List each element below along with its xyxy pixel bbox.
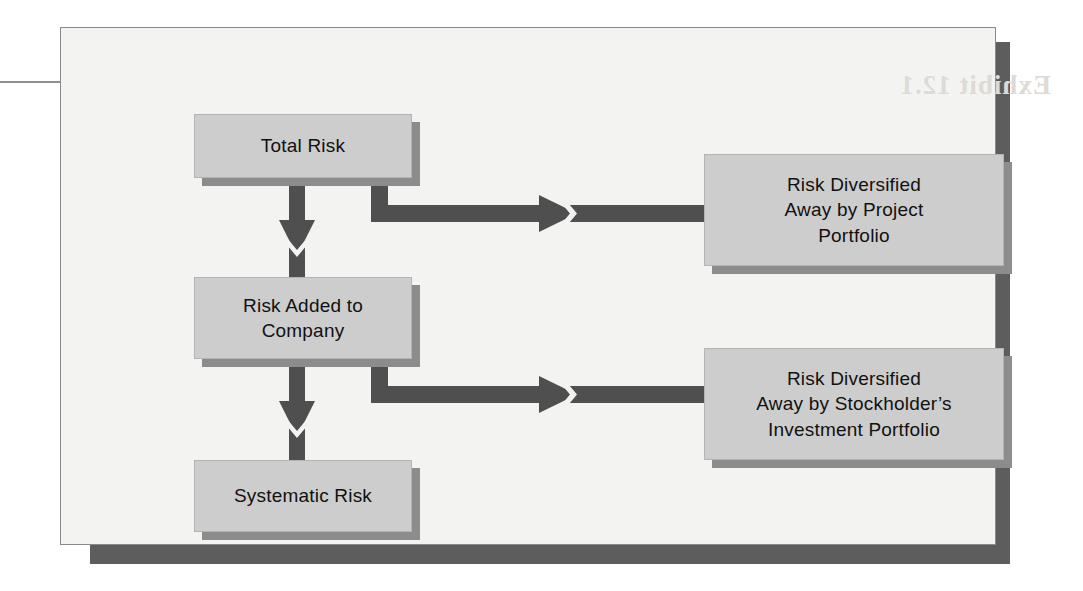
- node-risk-added-line-2: Company: [262, 320, 345, 341]
- page-margin-rule: [0, 81, 66, 83]
- reverse-page-bleed-through-text: Exhibit 12.1: [721, 70, 1051, 104]
- node-diversified-stockholder-line-3: Investment Portfolio: [768, 419, 940, 440]
- node-total-risk: Total Risk: [194, 114, 412, 178]
- connector-total-risk-to-diversified-project: [371, 174, 711, 260]
- node-risk-added-to-company-label: Risk Added to Company: [243, 293, 363, 343]
- scanned-page-background: Exhibit 12.1: [0, 0, 1083, 591]
- node-diversified-stockholder-label: Risk Diversified Away by Stockholder’s I…: [756, 366, 951, 441]
- node-diversified-stockholder-line-2: Away by Stockholder’s: [756, 393, 951, 414]
- connector-risk-added-to-diversified-stockholder: [371, 355, 711, 441]
- node-diversified-project-line-2: Away by Project: [785, 199, 924, 220]
- node-diversified-project-line-1: Risk Diversified: [787, 174, 921, 195]
- node-risk-added-to-company: Risk Added to Company: [194, 277, 412, 359]
- node-systematic-risk-label: Systematic Risk: [234, 483, 372, 508]
- connector-total-risk-to-risk-added: [275, 174, 319, 282]
- node-diversified-stockholder-line-1: Risk Diversified: [787, 368, 921, 389]
- node-diversified-project-label: Risk Diversified Away by Project Portfol…: [785, 172, 924, 247]
- connector-risk-added-to-systematic-risk: [275, 355, 319, 463]
- node-risk-added-line-1: Risk Added to: [243, 295, 363, 316]
- node-risk-diversified-by-stockholder-portfolio: Risk Diversified Away by Stockholder’s I…: [704, 348, 1004, 460]
- node-total-risk-label: Total Risk: [261, 133, 345, 158]
- node-risk-diversified-by-project-portfolio: Risk Diversified Away by Project Portfol…: [704, 154, 1004, 266]
- node-diversified-project-line-3: Portfolio: [818, 225, 890, 246]
- exhibit-panel: Exhibit 12.1: [60, 27, 996, 545]
- node-systematic-risk: Systematic Risk: [194, 460, 412, 532]
